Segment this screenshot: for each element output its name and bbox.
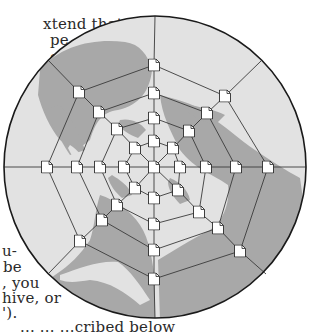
- document-icon: [213, 222, 224, 234]
- document-icon: [112, 199, 123, 211]
- document-icon: [220, 90, 231, 102]
- document-icon: [194, 206, 205, 218]
- document-icon: [173, 184, 184, 196]
- document-icon: [149, 59, 160, 71]
- document-icon: [231, 161, 242, 173]
- document-icon: [149, 87, 160, 99]
- document-icon: [72, 161, 83, 173]
- document-icon: [149, 244, 160, 256]
- document-icon: [149, 192, 160, 204]
- document-icon: [149, 161, 160, 173]
- document-icon: [130, 142, 141, 154]
- document-icon: [175, 161, 186, 173]
- document-icon: [149, 273, 160, 285]
- document-icon: [119, 161, 130, 173]
- document-icon: [42, 161, 53, 173]
- document-icon: [149, 135, 160, 147]
- document-icon: [75, 235, 86, 247]
- document-icon: [202, 107, 213, 119]
- document-icon: [201, 161, 212, 173]
- document-icon: [149, 112, 160, 124]
- document-icon: [149, 218, 160, 230]
- document-icon: [95, 161, 106, 173]
- document-icon: [94, 106, 105, 118]
- document-icon: [168, 142, 179, 154]
- document-icon: [112, 123, 123, 135]
- document-icon: [130, 182, 141, 194]
- document-icon: [74, 86, 85, 98]
- document-icon: [235, 245, 246, 257]
- document-icon: [184, 125, 195, 137]
- document-icon: [97, 214, 108, 226]
- document-icon: [263, 161, 274, 173]
